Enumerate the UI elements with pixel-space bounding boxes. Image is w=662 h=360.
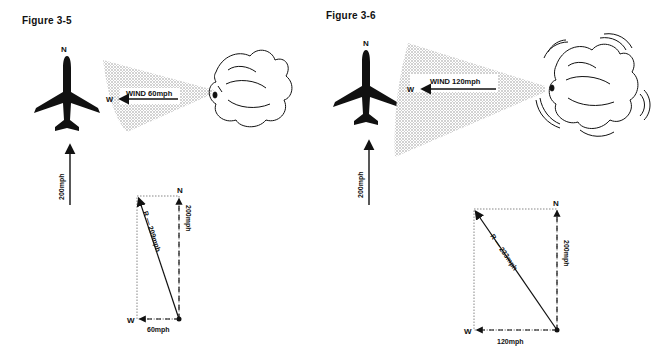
north-component-label: 200mph <box>184 205 192 231</box>
wind-cloud-face-icon <box>536 34 650 137</box>
diagram-north-label: N <box>553 199 559 208</box>
figure-3-6: N 200mph WIND 120mph W <box>333 34 650 346</box>
diagram-north-label: N <box>177 186 183 195</box>
wind-speed-label: WIND 120mph <box>430 77 481 86</box>
wind-west-label: W <box>106 95 114 104</box>
resultant-label: R — 209mph <box>141 210 162 253</box>
wind-cone <box>395 43 545 157</box>
wind-cloud-face-icon <box>209 50 292 127</box>
north-label: N <box>61 45 67 54</box>
aircraft-speed-label: 200mph <box>58 174 66 200</box>
diagram-west-label: W <box>127 316 135 325</box>
west-component-label: 60mph <box>147 326 170 334</box>
figure-3-5: N 200mph WIND 60mph W N <box>34 45 292 334</box>
wind-speed-label: WIND 60mph <box>126 89 173 98</box>
wind-west-label: W <box>407 85 415 94</box>
west-component-label: 120mph <box>497 338 523 346</box>
airplane-icon <box>333 50 399 125</box>
north-component-label: 200mph <box>562 240 570 266</box>
aircraft-speed-label: 200mph <box>357 172 365 198</box>
airplane-icon <box>34 56 100 131</box>
resultant-label: R — 233mph <box>488 233 519 272</box>
north-label: N <box>363 39 369 48</box>
diagram-west-label: W <box>464 327 472 336</box>
vector-diagram-3-5: N W 60mph 200mph R — 209mph <box>127 186 192 334</box>
vector-diagram-3-6: N W 120mph 200mph R — 233mph <box>464 199 570 346</box>
wind-vector-diagrams: N 200mph WIND 60mph W N <box>0 0 662 360</box>
